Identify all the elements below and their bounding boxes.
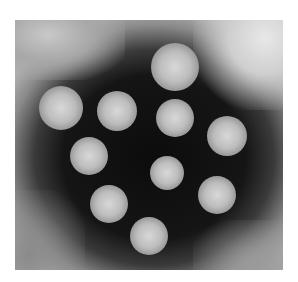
virus-particle (207, 116, 247, 156)
stain-haze-top-right (193, 20, 283, 110)
virus-particle (97, 91, 137, 131)
stain-haze-bottom-right (193, 220, 283, 270)
virus-particle (130, 217, 168, 255)
virus-particle (39, 86, 83, 130)
stain-haze-top-left (15, 20, 125, 80)
stain-haze-bottom-left (15, 190, 85, 270)
virus-particle (70, 137, 108, 175)
virus-particle (90, 185, 128, 223)
virus-particle (156, 99, 194, 137)
micrograph (15, 20, 283, 270)
virus-particle (198, 176, 236, 214)
virus-particle (150, 156, 184, 190)
virus-particle (151, 43, 199, 91)
